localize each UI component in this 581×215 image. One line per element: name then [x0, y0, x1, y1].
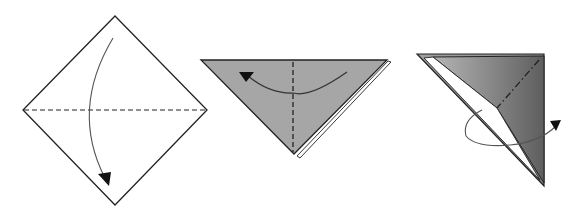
step-1-diamond — [23, 16, 207, 205]
step-2-triangle — [201, 60, 391, 158]
step-3-triangle — [417, 54, 561, 186]
origami-diagram — [0, 0, 581, 215]
